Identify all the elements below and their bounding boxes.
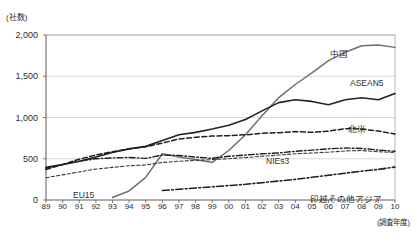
x-tick-label: 03 bbox=[274, 202, 283, 211]
x-tick-label: 90 bbox=[58, 202, 67, 211]
y-tick-label: 1,500 bbox=[0, 71, 38, 81]
x-tick-label: 04 bbox=[291, 202, 300, 211]
x-tick-label: 98 bbox=[191, 202, 200, 211]
y-tick-label: 0 bbox=[0, 195, 38, 205]
x-tick-label: 97 bbox=[174, 202, 183, 211]
y-tick-label: 2,000 bbox=[0, 30, 38, 40]
series-label: NIEs3 bbox=[266, 156, 289, 166]
x-tick-label: 91 bbox=[75, 202, 84, 211]
x-tick-label: 00 bbox=[224, 202, 233, 211]
x-tick-label: 10 bbox=[391, 202, 400, 211]
x-tick-label: 92 bbox=[91, 202, 100, 211]
series-line-5 bbox=[162, 167, 395, 191]
y-tick-label: 500 bbox=[0, 154, 38, 164]
x-tick-label: 01 bbox=[241, 202, 250, 211]
x-tick-label: 94 bbox=[125, 202, 134, 211]
x-tick-label: 96 bbox=[158, 202, 167, 211]
y-tick-label: 1,000 bbox=[0, 113, 38, 123]
series-line-2 bbox=[46, 129, 395, 170]
x-tick-label: 99 bbox=[208, 202, 217, 211]
x-tick-label: 89 bbox=[42, 202, 51, 211]
series-label: 中国 bbox=[330, 47, 348, 59]
series-label: 印越その他アジア bbox=[310, 192, 382, 204]
x-tick-label: 02 bbox=[258, 202, 267, 211]
x-tick-label: 93 bbox=[108, 202, 117, 211]
x-tick-label: 95 bbox=[141, 202, 150, 211]
series-label: ASEAN5 bbox=[350, 78, 384, 88]
series-label: 北米 bbox=[348, 122, 366, 134]
chart-container: (社数) (調査年度) 05001,0001,5002,000 89909192… bbox=[0, 0, 417, 244]
series-label: EU15 bbox=[73, 190, 94, 200]
